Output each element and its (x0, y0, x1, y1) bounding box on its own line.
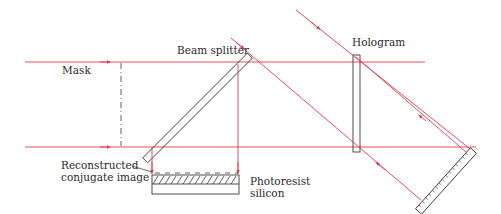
photoresist-silicon-label: Photoresist silicon (250, 175, 310, 199)
reconstructed-label-line2: conjugate image (61, 171, 149, 183)
photoresist-silicon-substrate (152, 173, 239, 194)
beam-splitter-label: Beam splitter (177, 44, 249, 56)
holographic-lithography-diagram: Mask Beam splitter Hologram Reconstructe… (0, 0, 501, 214)
photoresist-label: Photoresist (250, 175, 310, 187)
mask-label: Mask (62, 64, 91, 76)
reconstructed-conjugate-image-label: Reconstructed conjugate image (61, 159, 149, 183)
beam-splitter (143, 53, 253, 163)
reconstructed-label-line1: Reconstructed (61, 159, 149, 171)
incoming-reference-beam (296, 10, 474, 152)
silicon-label: silicon (250, 187, 310, 199)
hologram-label: Hologram (352, 36, 405, 48)
grating-mirror (416, 148, 477, 214)
hologram-plate (353, 55, 360, 152)
return-beam (356, 57, 466, 152)
